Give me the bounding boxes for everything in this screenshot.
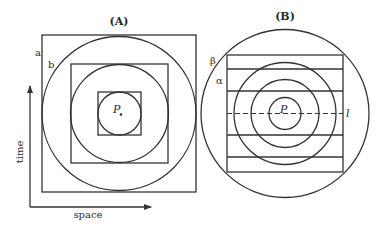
point-p-dot-a xyxy=(120,113,123,116)
panel-a: (A) a b P time space xyxy=(14,15,196,220)
label-alpha: α xyxy=(216,75,223,86)
time-axis-label: time xyxy=(14,141,25,164)
panel-b: (B) β α P l xyxy=(201,10,369,198)
diagram-canvas: (A) a b P time space (B) xyxy=(0,0,387,225)
space-axis-label: space xyxy=(73,209,102,220)
point-p-label-b: P xyxy=(279,103,288,116)
label-a: a xyxy=(35,47,41,58)
point-p-label-a: P xyxy=(112,103,121,116)
panel-a-title: (A) xyxy=(110,15,129,28)
label-b: b xyxy=(48,59,54,70)
panel-b-title: (B) xyxy=(275,10,295,23)
line-l-label: l xyxy=(346,107,350,120)
label-beta: β xyxy=(210,55,216,66)
